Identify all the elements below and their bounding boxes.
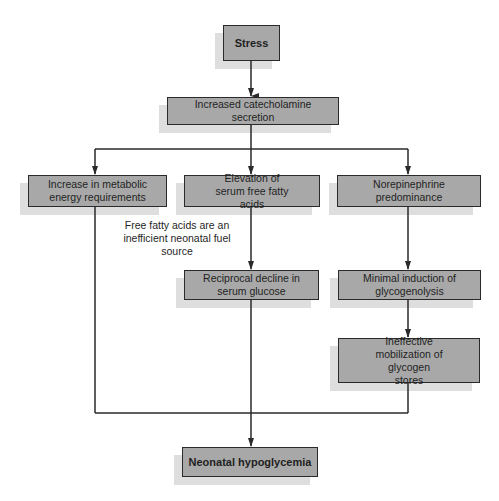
flowchart: Stress Increased catecholamine secretion… [0, 0, 499, 501]
annotation-fatty-acids: Free fatty acids are an inefficient neon… [117, 219, 237, 258]
node-metabolic-label: Increase in metabolic energy requirement… [33, 178, 162, 204]
node-catecholamine-label: Increased catecholamine secretion [172, 98, 334, 124]
annotation-text: Free fatty acids are an inefficient neon… [123, 219, 230, 257]
node-glycogen-stores-label: Ineffective mobilization of glycogen sto… [373, 335, 445, 387]
node-glycogenolysis-label: Minimal induction of glycogenolysis [359, 272, 460, 298]
node-glycogenolysis: Minimal induction of glycogenolysis [338, 270, 481, 300]
node-stress: Stress [223, 25, 280, 61]
node-catecholamine: Increased catecholamine secretion [167, 97, 339, 125]
node-hypoglycemia-label: Neonatal hypoglycemia [189, 456, 312, 469]
node-norepinephrine-label: Norepinephrine predominance [368, 178, 450, 204]
node-glycogen-stores: Ineffective mobilization of glycogen sto… [338, 338, 480, 383]
connector-lines [0, 0, 499, 501]
node-stress-label: Stress [235, 37, 269, 50]
node-metabolic: Increase in metabolic energy requirement… [28, 175, 167, 207]
node-fatty-acids: Elevation of serum free fatty acids [184, 175, 320, 207]
node-glucose-decline: Reciprocal decline in serum glucose [184, 270, 319, 300]
node-fatty-acids-label: Elevation of serum free fatty acids [209, 172, 295, 211]
node-hypoglycemia: Neonatal hypoglycemia [182, 447, 318, 477]
node-norepinephrine: Norepinephrine predominance [337, 175, 481, 207]
node-glucose-decline-label: Reciprocal decline in serum glucose [203, 272, 300, 298]
